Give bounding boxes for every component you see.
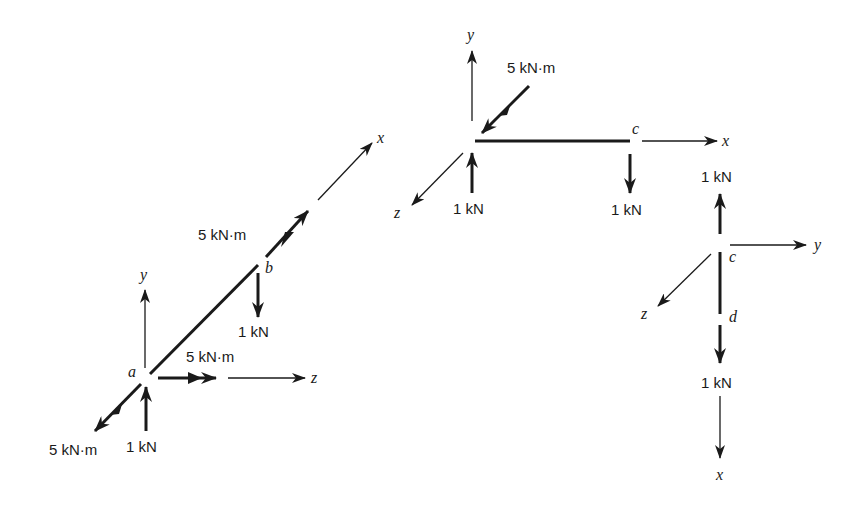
axis-y-label-cd: y (812, 236, 822, 254)
force-cd-c-up-label: 1 kN (701, 168, 732, 185)
axis-x-label-bc: x (721, 132, 729, 149)
diagram-svg: y z x 5 kN·m 1 kN b a 5 kN·m 5 kN·m 1 kN (0, 0, 863, 508)
axis-z-bc (412, 153, 463, 205)
point-c-label-bc: c (632, 120, 639, 137)
axis-z-label-a: z (310, 369, 318, 386)
point-d-label: d (729, 308, 738, 325)
axis-x-label-cd: x (715, 466, 723, 483)
point-c-label-cd: c (729, 248, 736, 265)
force-d-down-label: 1 kN (701, 374, 732, 391)
point-a-label: a (128, 363, 136, 380)
axis-z-cd (658, 254, 711, 306)
axis-z-label-cd: z (640, 305, 648, 322)
axis-x-label-ab: x (376, 129, 384, 146)
force-bc-left-up-label: 1 kN (453, 200, 484, 217)
member-ab-group: y z x 5 kN·m 1 kN b a 5 kN·m 5 kN·m 1 kN (49, 129, 384, 458)
moment-a-z-label: 5 kN·m (186, 348, 234, 365)
member-cd-group: 1 kN y c z d 1 kN x (640, 168, 822, 483)
axis-x-ab (318, 143, 372, 200)
axis-z-label-bc: z (393, 204, 401, 221)
force-a-up-label: 1 kN (126, 438, 157, 455)
moment-b-x-label: 5 kN·m (198, 226, 246, 243)
point-b-label: b (265, 259, 273, 276)
moment-a-z-second-head (188, 372, 202, 384)
diagram-canvas: y z x 5 kN·m 1 kN b a 5 kN·m 5 kN·m 1 kN (0, 0, 863, 508)
axis-y-label-bc: y (465, 26, 475, 44)
moment-bc-diag-label: 5 kN·m (507, 59, 555, 76)
member-bc-group: y x z 5 kN·m 1 kN 1 kN c (393, 26, 729, 221)
moment-a-out-label: 5 kN·m (49, 441, 97, 458)
axis-y-label-a: y (138, 266, 148, 284)
force-c-down-label: 1 kN (611, 201, 642, 218)
force-b-down-label: 1 kN (238, 323, 269, 340)
